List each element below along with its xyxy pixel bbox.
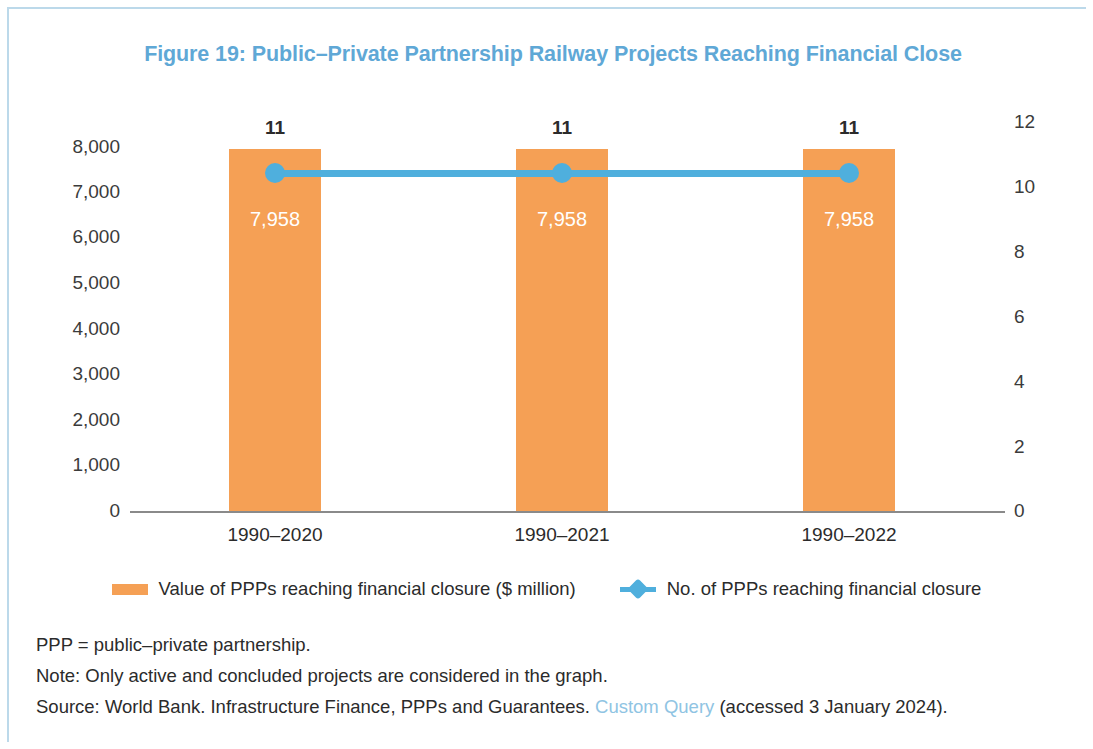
line-value-label: 11 [803, 117, 895, 139]
note-abbreviation: PPP = public–private partnership. [36, 629, 1066, 660]
y-axis-left-tick: 5,000 [48, 272, 120, 294]
y-axis-left-tick: 4,000 [48, 318, 120, 340]
figure-notes: PPP = public–private partnership. Note: … [36, 629, 1066, 722]
x-axis-line [130, 511, 1005, 513]
y-axis-left-tick: 3,000 [48, 363, 120, 385]
line-value-label: 11 [229, 117, 321, 139]
line-marker-1990-2021 [552, 163, 572, 183]
chart-legend: Value of PPPs reaching financial closure… [0, 578, 1093, 600]
y-axis-right-tick: 8 [1014, 241, 1064, 263]
bar-1990-2022 [803, 149, 895, 511]
y-axis-right-tick: 6 [1014, 306, 1064, 328]
note-text: Note: Only active and concluded projects… [36, 660, 1066, 691]
y-axis-right-tick: 12 [1014, 111, 1064, 133]
y-axis-left-tick: 0 [48, 500, 120, 522]
x-axis-category-label: 1990–2020 [175, 524, 375, 546]
bar-value-label: 7,958 [229, 208, 321, 231]
legend-label: No. of PPPs reaching financial closure [667, 578, 982, 600]
x-axis-category-label: 1990–2021 [462, 524, 662, 546]
bar-1990-2020 [229, 149, 321, 511]
y-axis-right-tick: 0 [1014, 500, 1064, 522]
y-axis-left-tick: 1,000 [48, 454, 120, 476]
line-marker-1990-2022 [839, 163, 859, 183]
line-value-label: 11 [516, 117, 608, 139]
y-axis-left-tick: 2,000 [48, 409, 120, 431]
bar-swatch-icon [112, 584, 148, 595]
legend-item-number-of-ppps: No. of PPPs reaching financial closure [620, 578, 982, 600]
line-swatch-icon [620, 581, 656, 597]
y-axis-left-tick: 6,000 [48, 226, 120, 248]
x-axis-category-label: 1990–2022 [749, 524, 949, 546]
source-prefix: Source: World Bank. Infrastructure Finan… [36, 696, 595, 717]
y-axis-right-tick: 2 [1014, 436, 1064, 458]
legend-label: Value of PPPs reaching financial closure… [159, 578, 576, 600]
legend-item-value-of-ppps: Value of PPPs reaching financial closure… [112, 578, 576, 600]
note-source: Source: World Bank. Infrastructure Finan… [36, 691, 1066, 722]
y-axis-right-tick: 10 [1014, 176, 1064, 198]
bar-value-label: 7,958 [516, 208, 608, 231]
line-marker-1990-2020 [265, 163, 285, 183]
y-axis-left-tick: 7,000 [48, 181, 120, 203]
bar-1990-2021 [516, 149, 608, 511]
y-axis-right-tick: 4 [1014, 371, 1064, 393]
bar-value-label: 7,958 [803, 208, 895, 231]
source-suffix: (accessed 3 January 2024). [714, 696, 947, 717]
custom-query-link[interactable]: Custom Query [595, 696, 714, 717]
y-axis-left-tick: 8,000 [48, 136, 120, 158]
